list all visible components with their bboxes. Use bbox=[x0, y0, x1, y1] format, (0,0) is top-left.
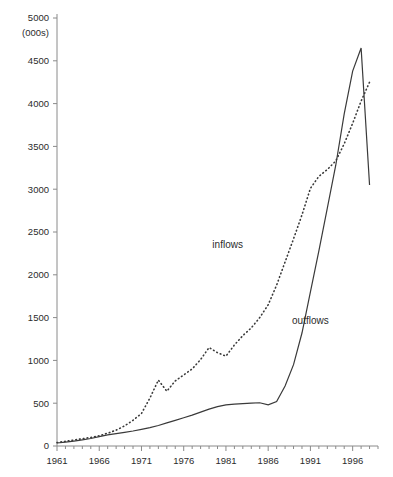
series-line-inflows bbox=[57, 82, 370, 442]
x-tick-label: 1961 bbox=[46, 455, 67, 466]
x-tick-label: 1976 bbox=[173, 455, 194, 466]
y-tick-label: 1500 bbox=[28, 312, 49, 323]
y-tick-label: 2000 bbox=[28, 269, 49, 280]
x-tick-label: 1981 bbox=[215, 455, 236, 466]
series-label-outflows: outflows bbox=[292, 315, 329, 326]
y-tick-label: 3000 bbox=[28, 184, 49, 195]
chart-container: 0500100015002000250030003500400045005000… bbox=[0, 0, 393, 477]
y-tick-label: 4500 bbox=[28, 55, 49, 66]
x-tick-label: 1991 bbox=[300, 455, 321, 466]
line-chart: 0500100015002000250030003500400045005000… bbox=[0, 0, 393, 477]
x-axis: 19611966197119761981198619911996 bbox=[46, 446, 378, 466]
series-label-inflows: inflows bbox=[212, 239, 243, 250]
x-tick-label: 1966 bbox=[89, 455, 110, 466]
y-tick-label: 4000 bbox=[28, 98, 49, 109]
y-tick-label: 500 bbox=[33, 398, 49, 409]
y-tick-label: 0 bbox=[44, 440, 49, 451]
y-tick-label: 3500 bbox=[28, 141, 49, 152]
x-tick-label: 1971 bbox=[131, 455, 152, 466]
y-axis: 0500100015002000250030003500400045005000… bbox=[22, 12, 57, 451]
y-tick-label: 1000 bbox=[28, 355, 49, 366]
y-tick-label: 5000 bbox=[28, 12, 49, 23]
series-annotations: inflowsoutflows bbox=[212, 239, 328, 325]
y-axis-unit-label: (000s) bbox=[22, 27, 49, 38]
y-tick-label: 2500 bbox=[28, 226, 49, 237]
x-tick-label: 1986 bbox=[258, 455, 279, 466]
x-tick-label: 1996 bbox=[342, 455, 363, 466]
